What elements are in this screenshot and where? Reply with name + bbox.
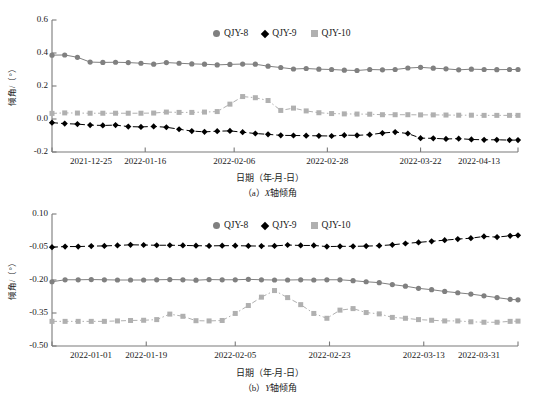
data-point-qjy-8 — [113, 60, 118, 65]
data-point-qjy-8 — [227, 62, 232, 67]
data-point-qjy-9 — [167, 242, 173, 248]
data-point-qjy-10 — [429, 318, 434, 323]
data-point-qjy-8 — [49, 53, 54, 58]
data-point-qjy-10 — [177, 110, 182, 115]
data-point-qjy-9 — [311, 242, 317, 248]
data-point-qjy-9 — [114, 242, 120, 248]
x-axis-title-a: 日期（年-月-日） — [0, 171, 540, 184]
data-point-qjy-10 — [138, 111, 143, 116]
data-point-qjy-8 — [442, 289, 447, 294]
data-point-qjy-10 — [403, 316, 408, 321]
data-point-qjy-9 — [75, 243, 81, 249]
data-point-qjy-9 — [245, 243, 251, 249]
data-point-qjy-9 — [376, 243, 382, 249]
data-point-qjy-9 — [481, 233, 487, 239]
data-point-qjy-9 — [341, 132, 347, 138]
data-point-qjy-9 — [337, 243, 343, 249]
data-point-qjy-9 — [100, 122, 106, 128]
data-point-qjy-9 — [405, 130, 411, 136]
legend-item-qjy-8[interactable]: QJY-8 — [213, 221, 248, 231]
data-point-qjy-9 — [316, 133, 322, 139]
legend-item-qjy-9[interactable]: QJY-9 — [262, 29, 296, 39]
legend-item-qjy-10[interactable]: QJY-10 — [311, 221, 351, 231]
chart-svg-a — [0, 0, 540, 160]
x-tick-label: 2022-03-31 — [434, 350, 524, 360]
data-point-qjy-9 — [417, 135, 423, 141]
data-point-qjy-9 — [232, 243, 238, 249]
data-point-qjy-10 — [167, 312, 172, 317]
data-point-qjy-9 — [87, 122, 93, 128]
data-point-qjy-9 — [271, 243, 277, 249]
data-point-qjy-9 — [252, 130, 258, 136]
data-point-qjy-10 — [50, 319, 55, 324]
data-point-qjy-9 — [138, 124, 144, 130]
data-point-qjy-10 — [154, 317, 159, 322]
data-point-qjy-8 — [202, 62, 207, 67]
data-point-qjy-8 — [88, 59, 93, 64]
data-point-qjy-10 — [405, 112, 410, 117]
y-tick-label: 0.4 — [8, 47, 48, 57]
data-point-qjy-9 — [442, 237, 448, 243]
data-point-qjy-10 — [189, 110, 194, 115]
data-point-qjy-9 — [303, 133, 309, 139]
data-point-qjy-9 — [227, 128, 233, 134]
data-point-qjy-8 — [167, 277, 172, 282]
data-point-qjy-10 — [285, 295, 290, 300]
data-point-qjy-10 — [220, 318, 225, 323]
data-point-qjy-8 — [515, 297, 520, 302]
data-point-qjy-10 — [304, 108, 309, 113]
data-point-qjy-8 — [494, 295, 499, 300]
series-line-qjy-10 — [52, 291, 518, 323]
data-point-qjy-10 — [380, 112, 385, 117]
data-point-qjy-10 — [202, 110, 207, 115]
data-point-qjy-8 — [240, 61, 245, 66]
data-point-qjy-8 — [416, 286, 421, 291]
data-point-qjy-10 — [367, 112, 372, 117]
data-point-qjy-8 — [468, 291, 473, 296]
data-point-qjy-10 — [207, 318, 212, 323]
data-point-qjy-8 — [431, 66, 436, 71]
data-point-qjy-9 — [468, 235, 474, 241]
data-point-qjy-10 — [113, 111, 118, 116]
data-point-qjy-8 — [62, 52, 67, 57]
legend-item-qjy-9[interactable]: QJY-9 — [262, 221, 296, 231]
data-point-qjy-9 — [468, 136, 474, 142]
data-point-qjy-8 — [350, 278, 355, 283]
data-point-qjy-9 — [240, 129, 246, 135]
data-point-qjy-10 — [316, 110, 321, 115]
data-point-qjy-8 — [304, 66, 309, 71]
legend-item-qjy-8[interactable]: QJY-8 — [213, 29, 248, 39]
plot-area-a — [0, 0, 540, 160]
data-point-qjy-10 — [76, 319, 81, 324]
data-point-qjy-9 — [379, 130, 385, 136]
data-point-qjy-9 — [206, 243, 212, 249]
data-point-qjy-8 — [220, 277, 225, 282]
data-point-qjy-8 — [329, 67, 334, 72]
data-point-qjy-8 — [405, 65, 410, 70]
data-point-qjy-8 — [377, 280, 382, 285]
series-line-qjy-9 — [52, 123, 518, 140]
chart-panel-x-axis-tilt: 倾角/（°） QJY-8 QJY-9 QJY-10 日期（年-月-日） （a）X… — [0, 0, 540, 200]
data-point-qjy-9 — [507, 233, 513, 239]
y-tick-label: 0.6 — [8, 14, 48, 24]
data-point-qjy-8 — [429, 287, 434, 292]
data-point-qjy-9 — [329, 133, 335, 139]
data-point-qjy-10 — [62, 110, 67, 115]
data-point-qjy-8 — [403, 284, 408, 289]
data-point-qjy-9 — [429, 238, 435, 244]
panel-caption-a-suffix: 轴倾角 — [270, 188, 297, 198]
data-point-qjy-9 — [62, 243, 68, 249]
data-point-qjy-10 — [456, 113, 461, 118]
data-point-qjy-9 — [350, 243, 356, 249]
data-point-qjy-9 — [180, 242, 186, 248]
data-point-qjy-8 — [482, 67, 487, 72]
data-point-qjy-9 — [443, 136, 449, 142]
data-point-qjy-10 — [355, 112, 360, 117]
data-point-qjy-10 — [495, 320, 500, 325]
data-point-qjy-10 — [416, 317, 421, 322]
diamond-icon — [261, 222, 269, 230]
data-point-qjy-8 — [380, 67, 385, 72]
data-point-qjy-10 — [141, 318, 146, 323]
legend-item-qjy-10[interactable]: QJY-10 — [311, 29, 351, 39]
data-point-qjy-9 — [112, 122, 118, 128]
